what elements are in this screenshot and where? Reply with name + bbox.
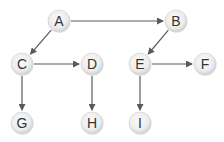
node-h: H (81, 112, 104, 135)
tree-diagram: ABCDEFGHI (0, 0, 224, 142)
edge-b-to-e-arrow (148, 30, 168, 54)
node-g: G (11, 112, 34, 135)
node-label: A (54, 13, 64, 29)
nodes-layer: ABCDEFGHI (11, 10, 217, 135)
node-label: B (171, 13, 180, 29)
node-e: E (129, 53, 152, 76)
node-label: H (87, 115, 97, 131)
node-f: F (194, 53, 217, 76)
node-a: A (48, 10, 71, 33)
node-label: G (17, 115, 28, 131)
node-label: C (17, 56, 27, 72)
node-label: D (87, 56, 97, 72)
edges-layer (22, 21, 192, 110)
node-b: B (165, 10, 188, 33)
node-label: I (138, 115, 142, 131)
node-label: E (135, 56, 144, 72)
node-label: F (201, 56, 210, 72)
node-c: C (11, 53, 34, 76)
node-i: I (129, 112, 152, 135)
edge-a-to-c-arrow (31, 30, 52, 54)
node-d: D (81, 53, 104, 76)
